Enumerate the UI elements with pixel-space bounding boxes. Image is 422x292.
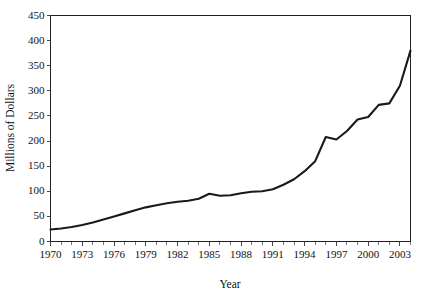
x-tick-label: 1979 bbox=[135, 248, 158, 260]
y-tick-label: 450 bbox=[28, 9, 45, 21]
y-tick-label: 100 bbox=[28, 184, 45, 196]
y-tick-label: 300 bbox=[28, 84, 45, 96]
x-axis-title: Year bbox=[219, 278, 240, 290]
x-tick-label: 2000 bbox=[357, 248, 380, 260]
x-tick-label: 1982 bbox=[167, 248, 189, 260]
x-tick-label: 1973 bbox=[71, 248, 94, 260]
x-tick-label: 2003 bbox=[389, 248, 412, 260]
x-tick-label: 1988 bbox=[230, 248, 253, 260]
y-tick-label: 250 bbox=[28, 109, 45, 121]
y-tick-label: 150 bbox=[28, 159, 45, 171]
x-tick-label: 1997 bbox=[325, 248, 348, 260]
y-tick-label: 50 bbox=[34, 209, 46, 221]
y-tick-label: 400 bbox=[28, 34, 45, 46]
y-tick-label: 200 bbox=[28, 134, 45, 146]
x-tick-label: 1970 bbox=[40, 248, 63, 260]
x-tick-label: 1985 bbox=[198, 248, 221, 260]
x-axis-ticks bbox=[51, 242, 411, 247]
x-axis-tick-labels: 1970197319761979198219851988199119941997… bbox=[40, 248, 412, 260]
chart-container: 050100150200250300350400450 197019731976… bbox=[0, 0, 422, 292]
y-axis-tick-labels: 050100150200250300350400450 bbox=[28, 9, 45, 247]
y-tick-label: 0 bbox=[39, 235, 45, 247]
line-chart: 050100150200250300350400450 197019731976… bbox=[0, 0, 422, 292]
y-tick-label: 350 bbox=[28, 59, 45, 71]
x-tick-label: 1994 bbox=[294, 248, 317, 260]
plot-frame bbox=[51, 16, 411, 242]
data-series-line bbox=[51, 51, 411, 230]
x-tick-label: 1991 bbox=[262, 248, 284, 260]
y-axis-title: Millions of Dollars bbox=[4, 83, 16, 172]
x-tick-label: 1976 bbox=[103, 248, 126, 260]
